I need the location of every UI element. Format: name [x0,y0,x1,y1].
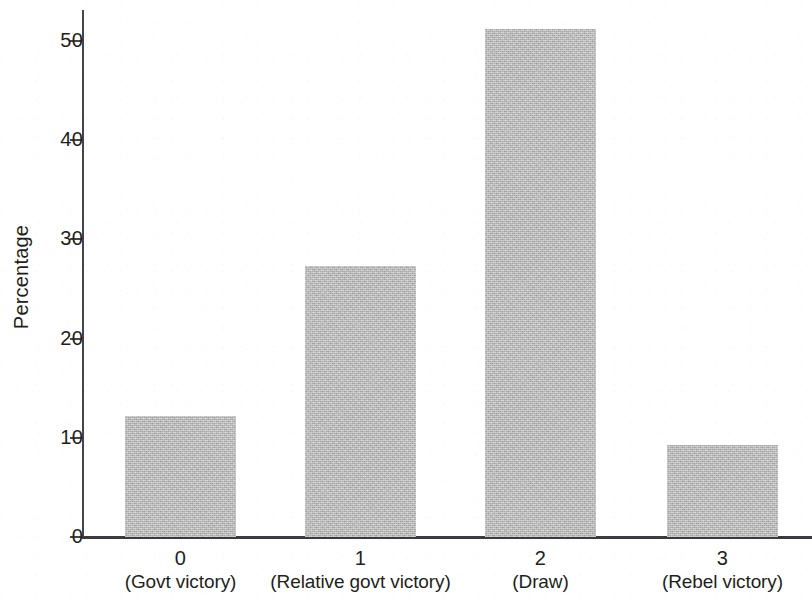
y-axis-tick-label: 20 [35,328,83,348]
y-axis-tick-label: 30 [35,228,83,248]
bar [485,29,596,537]
y-axis-tick-label: 10 [35,427,83,447]
y-axis-line [82,10,84,539]
bar-chart-figure: Percentage 50403020100 0(Govt victory)1(… [0,0,812,599]
x-axis-label: 3(Rebel victory) [583,546,812,594]
x-axis-label-caption: (Rebel victory) [583,570,812,594]
y-axis-tick-label: 0 [35,526,83,546]
y-axis-title: Percentage [10,207,32,347]
x-axis-label-value: 3 [583,546,812,570]
bar [667,445,778,537]
y-axis-tick-label: 50 [35,30,83,50]
y-axis-tick-label: 40 [35,129,83,149]
bar [125,416,236,537]
bar [305,266,416,537]
